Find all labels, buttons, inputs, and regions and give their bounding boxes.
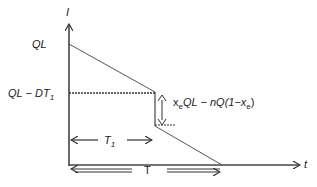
y-axis-label: I [66,6,69,18]
inventory-diagram: I t QL QL − DT1 xeQL − nQ(1−xe) T1 T [0,0,317,187]
x-axis-label: t [304,158,308,170]
drop-label: xeQL − nQ(1−xe) [173,96,254,111]
t1-label: T1 [104,134,115,149]
inventory-decline-1 [69,44,155,92]
tick-label-ql: QL [32,38,47,50]
t-label: T [144,164,151,176]
inventory-decline-2 [155,126,222,165]
tick-label-ql-minus-dt1: QL − DT1 [8,87,54,102]
